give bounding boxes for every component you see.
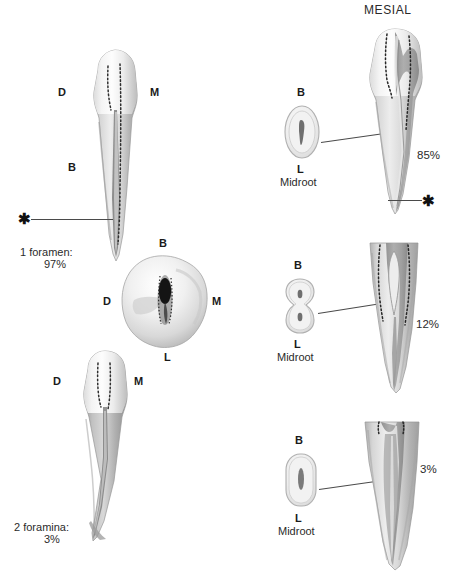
cross-section-oval-1 <box>283 104 321 160</box>
mesial-tooth-85-svg <box>355 26 435 216</box>
row-3-percent: 3% <box>420 463 437 475</box>
row-12-caption: Midroot <box>277 352 314 364</box>
cross-section-roundrect-3 <box>283 452 319 508</box>
row-3-label-buccal: B <box>295 435 303 447</box>
apical-foramen-marker-right: ✱ <box>422 193 435 208</box>
occlusal-label-buccal: B <box>159 238 167 250</box>
cross-section-hourglass-2 <box>282 277 318 335</box>
occlusal-label-lingual: L <box>164 352 171 364</box>
row-3-caption: Midroot <box>278 526 315 538</box>
canal-lumen-lingual <box>298 313 303 321</box>
one-foramen-stat-line2: 97% <box>44 259 66 271</box>
tooth-buccal-view-svg <box>78 48 152 263</box>
pulp-chamber-core <box>159 278 171 304</box>
leader-line-left-top <box>31 219 113 220</box>
midroot-section-roundrect-svg <box>283 452 319 508</box>
one-foramen-stat-line1: 1 foramen: <box>20 247 73 259</box>
row-12-label-lingual: L <box>294 339 301 351</box>
one-foramen-tooth-illustration <box>78 48 152 263</box>
two-foramina-tooth-illustration <box>70 349 144 544</box>
occlusal-cross-section-illustration <box>120 254 212 350</box>
mesial-header: MESIAL <box>364 4 412 17</box>
row-85-label-buccal: B <box>297 87 305 99</box>
row-12-label-buccal: B <box>294 260 302 272</box>
left-bottom-label-mesial: M <box>134 376 143 388</box>
two-foramina-stat-line1: 2 foramina: <box>14 522 69 534</box>
left-top-label-mesial: M <box>150 87 159 99</box>
crown-shading-2 <box>84 351 127 413</box>
two-foramina-stat-line2: 3% <box>44 534 60 546</box>
canal-lumen-single-3 <box>298 468 304 490</box>
mesial-tooth-85 <box>355 26 435 216</box>
occlusal-label-mesial: M <box>212 296 221 308</box>
left-top-label-distal: D <box>58 87 66 99</box>
row-85-label-lingual: L <box>297 164 304 176</box>
midroot-section-hourglass-svg <box>282 277 318 335</box>
row-85-percent: 85% <box>417 149 440 161</box>
apical-foramen-marker-left: ✱ <box>18 211 31 226</box>
row-85-caption: Midroot <box>280 177 317 189</box>
occlusal-label-distal: D <box>103 296 111 308</box>
canal-lumen-buccal <box>298 290 303 298</box>
midroot-section-oval-svg <box>283 104 321 160</box>
occlusal-view-svg <box>120 254 212 350</box>
mesial-tooth-3 <box>353 418 433 570</box>
left-top-label-buccal: B <box>68 162 76 174</box>
row-3-label-lingual: L <box>295 513 302 525</box>
leader-line-marker-right <box>388 200 422 201</box>
row-12-percent: 12% <box>416 318 439 330</box>
mesial-tooth-3-svg <box>353 418 433 570</box>
left-bottom-label-distal: D <box>53 376 61 388</box>
tooth-buccal-view-2-svg <box>70 349 144 544</box>
